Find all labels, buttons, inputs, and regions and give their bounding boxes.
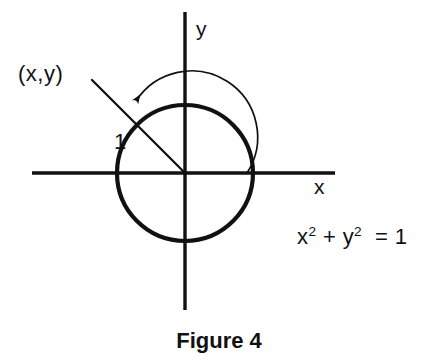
equation-x-exponent: 2 xyxy=(308,224,316,239)
figure-caption: Figure 4 xyxy=(0,328,438,354)
equation-plus-operator: + xyxy=(323,224,336,249)
radius-length-label: 1 xyxy=(114,131,126,153)
rotation-arc xyxy=(136,71,258,173)
equation-y-exponent: 2 xyxy=(354,224,362,239)
point-coordinate-label: (x,y) xyxy=(18,63,63,85)
y-axis-label: y xyxy=(196,18,207,39)
equation-x-base: x xyxy=(297,224,308,249)
figure-container: y x (x,y) 1 x2 + y2 = 1 Figure 4 xyxy=(0,0,438,360)
equation-equals-one: = 1 xyxy=(375,224,407,249)
equation-y-base: y xyxy=(343,224,354,249)
unit-circle-diagram xyxy=(0,0,438,360)
x-axis-label: x xyxy=(314,176,325,197)
radius-line xyxy=(92,80,185,173)
circle-equation-label: x2 + y2 = 1 xyxy=(297,226,408,248)
